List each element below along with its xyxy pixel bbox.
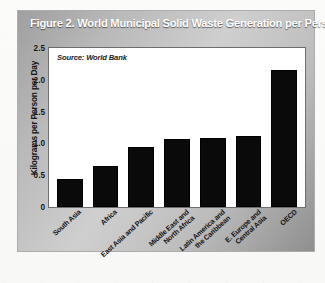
figure-page: Figure 2. World Municipal Solid Waste Ge…	[0, 0, 325, 283]
figure-panel: Figure 2. World Municipal Solid Waste Ge…	[18, 11, 314, 251]
bar-slot	[88, 48, 124, 207]
figure-title: Figure 2. World Municipal Solid Waste Ge…	[30, 17, 308, 30]
y-axis-tick-label: 2.0	[34, 75, 45, 84]
bar-slot	[52, 48, 88, 207]
plot-area: Source: World Bank	[48, 47, 306, 208]
x-axis-category-label: South Asia	[20, 209, 83, 267]
bar-series	[49, 48, 305, 207]
bar-slot	[195, 48, 231, 207]
y-axis-tick-label: 1.0	[34, 139, 45, 148]
x-axis-labels: South AsiaAfricaEast Asia and PacificMid…	[48, 209, 306, 271]
bar	[236, 136, 262, 207]
bar-slot	[266, 48, 302, 207]
bar-slot	[231, 48, 267, 207]
y-axis-tick-label: 0.5	[34, 171, 45, 180]
bar	[57, 179, 83, 207]
bar	[164, 139, 190, 207]
bar	[128, 147, 154, 207]
bar	[271, 70, 297, 207]
bar	[93, 166, 119, 207]
y-axis-tick-label: 1.5	[34, 107, 45, 116]
bar	[200, 138, 226, 207]
y-axis-tick-label: 2.5	[34, 44, 45, 53]
bar-slot	[159, 48, 195, 207]
y-axis-tick-label: 0	[40, 203, 45, 212]
y-axis: Kilograms per Person per Day 00.51.01.52…	[18, 47, 48, 208]
bar-slot	[123, 48, 159, 207]
